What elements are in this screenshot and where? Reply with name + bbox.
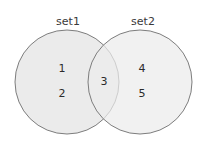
set1-member-1: 1 <box>59 62 66 75</box>
set2-label: set2 <box>131 15 155 28</box>
venn-diagram: set1 set2 1 2 3 4 5 <box>0 0 207 143</box>
intersection-member-3: 3 <box>101 75 108 88</box>
set2-member-4: 4 <box>139 62 146 75</box>
set1-label: set1 <box>56 15 80 28</box>
set2-member-5: 5 <box>139 87 146 100</box>
set1-member-2: 2 <box>59 87 66 100</box>
venn-diagram-canvas: set1 set2 1 2 3 4 5 <box>0 0 207 143</box>
